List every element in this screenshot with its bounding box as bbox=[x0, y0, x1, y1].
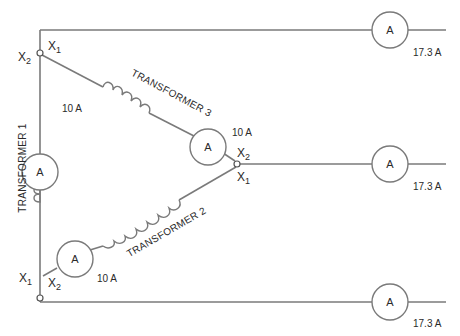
svg-text:X1: X1 bbox=[237, 170, 250, 186]
reading-line-2: 17.3 A bbox=[413, 181, 442, 192]
ammeter-symbol: A bbox=[71, 253, 79, 265]
reading-transformer-2: 10 A bbox=[97, 273, 117, 284]
ammeter-transformer-3: A bbox=[190, 129, 226, 165]
terminal-top-icon bbox=[37, 50, 43, 56]
terminal-bottom-icon bbox=[37, 295, 43, 301]
svg-text:X1: X1 bbox=[19, 271, 32, 287]
reading-transformer-3: 10 A bbox=[232, 127, 252, 138]
terminal-right-icon bbox=[234, 161, 240, 167]
svg-text:X2: X2 bbox=[48, 276, 61, 292]
transformer-1-label: TRANSFORMER 1 bbox=[17, 123, 28, 213]
reading-line-3: 17.3 A bbox=[413, 318, 442, 329]
ammeter-symbol: A bbox=[36, 166, 44, 178]
terminal-label-right-x1: X1 bbox=[237, 170, 250, 186]
ammeter-line-2: A bbox=[372, 146, 408, 182]
ammeter-line-1: A bbox=[372, 12, 408, 48]
delta-transformer-diagram: A 10 A A 10 A A 10 A A 17.3 A A 17.3 A A… bbox=[0, 0, 460, 336]
ammeter-symbol: A bbox=[386, 24, 394, 36]
ammeter-symbol: A bbox=[386, 296, 394, 308]
reading-transformer-1: 10 A bbox=[62, 103, 82, 114]
svg-text:X2: X2 bbox=[237, 146, 250, 162]
svg-text:X2: X2 bbox=[18, 50, 31, 66]
terminal-label-top-x1: X1 bbox=[48, 39, 61, 55]
ammeter-line-3: A bbox=[372, 284, 408, 320]
ammeter-symbol: A bbox=[386, 158, 394, 170]
ammeter-transformer-2: A bbox=[57, 241, 93, 277]
terminal-label-bottom-x1: X1 bbox=[19, 271, 32, 287]
reading-line-1: 17.3 A bbox=[413, 47, 442, 58]
terminal-label-right-x2: X2 bbox=[237, 146, 250, 162]
terminal-label-top-x2: X2 bbox=[18, 50, 31, 66]
svg-text:X1: X1 bbox=[48, 39, 61, 55]
transformer-3-label: TRANSFORMER 3 bbox=[130, 67, 214, 119]
terminal-label-bottom-x2: X2 bbox=[48, 276, 61, 292]
ammeter-symbol: A bbox=[204, 141, 212, 153]
transformer-3-coil-icon bbox=[103, 82, 150, 113]
